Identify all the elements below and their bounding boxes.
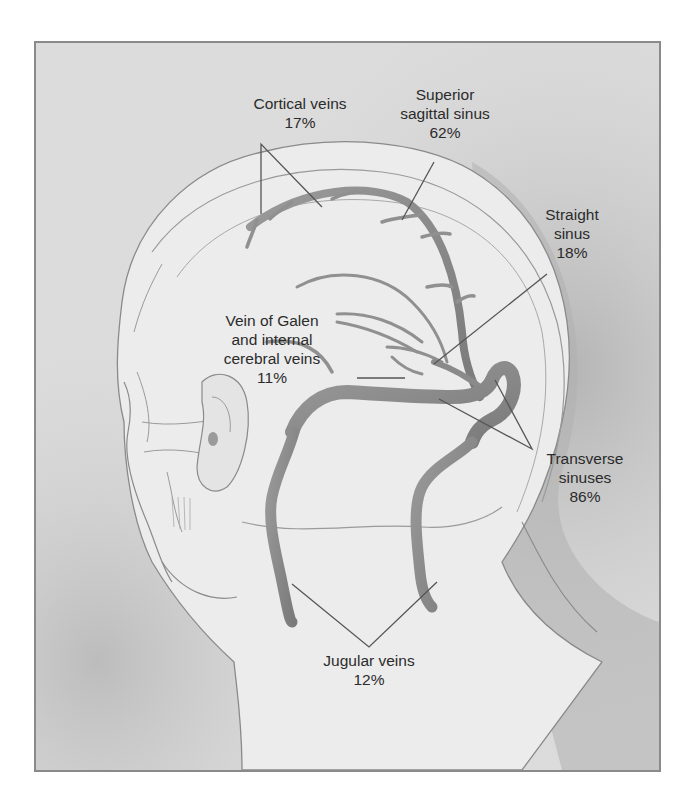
label-vein-of-galen-line3: cerebral veins bbox=[207, 349, 337, 368]
label-transverse-sinuses-line1: Transverse bbox=[530, 449, 640, 468]
label-transverse-sinuses-percent: 86% bbox=[530, 487, 640, 506]
label-cortical-veins: Cortical veins 17% bbox=[230, 94, 370, 132]
label-cortical-veins-name: Cortical veins bbox=[230, 94, 370, 113]
label-superior-sagittal-sinus: Superior sagittal sinus 62% bbox=[375, 85, 515, 142]
label-superior-sagittal-sinus-line1: Superior bbox=[375, 85, 515, 104]
label-transverse-sinuses: Transverse sinuses 86% bbox=[530, 449, 640, 506]
label-vein-of-galen-percent: 11% bbox=[207, 368, 337, 387]
label-straight-sinus-line2: sinus bbox=[522, 224, 622, 243]
label-straight-sinus-percent: 18% bbox=[522, 243, 622, 262]
label-jugular-veins-name: Jugular veins bbox=[302, 651, 436, 670]
label-jugular-veins: Jugular veins 12% bbox=[302, 651, 436, 689]
label-vein-of-galen-line2: and internal bbox=[207, 330, 337, 349]
label-straight-sinus: Straight sinus 18% bbox=[522, 205, 622, 262]
label-vein-of-galen-line1: Vein of Galen bbox=[207, 311, 337, 330]
label-vein-of-galen: Vein of Galen and internal cerebral vein… bbox=[207, 311, 337, 387]
label-superior-sagittal-sinus-percent: 62% bbox=[375, 123, 515, 142]
label-jugular-veins-percent: 12% bbox=[302, 670, 436, 689]
label-transverse-sinuses-line2: sinuses bbox=[530, 468, 640, 487]
label-superior-sagittal-sinus-line2: sagittal sinus bbox=[375, 104, 515, 123]
label-cortical-veins-percent: 17% bbox=[230, 113, 370, 132]
label-straight-sinus-line1: Straight bbox=[522, 205, 622, 224]
figure-frame: Cortical veins 17% Superior sagittal sin… bbox=[34, 41, 661, 772]
